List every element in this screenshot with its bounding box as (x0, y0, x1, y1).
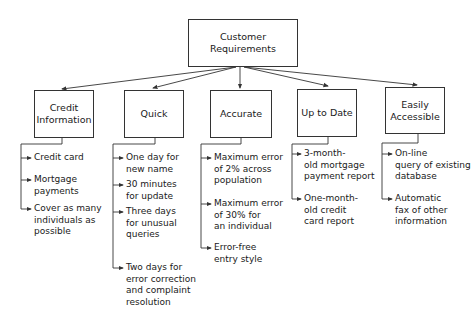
category-box-quick: Quick (124, 90, 184, 138)
list-item-error-free-entry: Error-free entry style (214, 242, 262, 265)
list-item-three-days-queries: Three days for unusual queries (126, 206, 177, 241)
root-box-customer-requirements: Customer Requirements (188, 19, 298, 67)
category-box-up-to-date: Up to Date (297, 89, 357, 137)
list-item-two-days-correction: Two days for error correction and compla… (126, 262, 196, 308)
list-item-one-month-credit: One-month- old credit card report (304, 193, 358, 228)
list-item-cover-individuals: Cover as many individuals as possible (34, 203, 102, 238)
list-item-mortgage-payments: Mortgage payments (34, 174, 79, 197)
list-item-online-query: On-line query of existing database (395, 148, 471, 183)
category-box-easily-accessible: Easily Accessible (385, 87, 445, 134)
list-item-30-minutes-update: 30 minutes for update (126, 179, 177, 202)
list-item-automatic-fax: Automatic fax of other information (395, 193, 447, 228)
list-item-max-error-2-percent: Maximum error of 2% across population (214, 152, 283, 187)
category-box-credit-information: Credit Information (34, 90, 94, 138)
category-label: Quick (141, 108, 168, 120)
category-box-accurate: Accurate (210, 90, 272, 138)
list-item-max-error-30-percent: Maximum error of 30% for an individual (214, 198, 283, 233)
category-label: Accurate (220, 108, 262, 120)
root-label: Customer Requirements (210, 31, 276, 55)
category-label: Up to Date (301, 107, 352, 119)
category-label: Easily Accessible (390, 99, 440, 123)
list-item-credit-card: Credit card (34, 152, 84, 164)
list-item-one-day-new-name: One day for new name (126, 152, 179, 175)
category-label: Credit Information (37, 102, 92, 126)
list-item-3-month-mortgage: 3-month- old mortgage payment report (304, 148, 374, 183)
